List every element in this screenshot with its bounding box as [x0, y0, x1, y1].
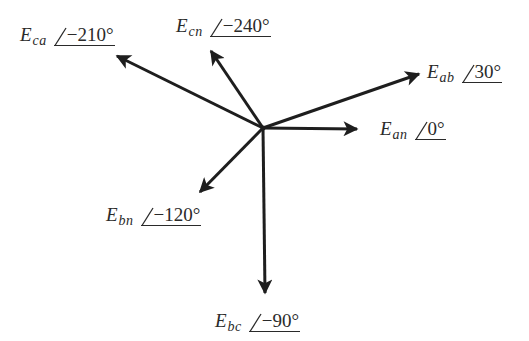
angle-notation: −120° [141, 205, 202, 226]
phasor-arrow-eca [117, 56, 263, 128]
label-subscript: ca [33, 33, 47, 48]
angle-symbol-icon [141, 207, 155, 226]
angle-notation: 0° [415, 119, 446, 140]
angle-value: 30° [475, 61, 502, 82]
label-subscript: ab [440, 70, 455, 85]
label-eca: Eca−210° [20, 25, 115, 46]
phasor-arrows [117, 51, 419, 293]
label-symbol: E [215, 310, 227, 331]
angle-value: −90° [262, 310, 299, 331]
label-subscript: cn [189, 24, 203, 39]
label-subscript: bn [119, 213, 134, 228]
angle-symbol-icon [54, 27, 68, 46]
label-eab: Eab30° [427, 62, 502, 83]
label-subscript: bc [228, 319, 242, 334]
label-symbol: E [106, 204, 118, 225]
phasor-arrow-ebn [200, 128, 263, 192]
angle-notation: −240° [210, 16, 271, 37]
label-ebn: Ebn−120° [106, 205, 201, 226]
label-symbol: E [176, 15, 188, 36]
angle-symbol-icon [249, 313, 263, 332]
angle-symbol-icon [415, 121, 429, 140]
origin-point [261, 126, 266, 131]
label-subscript: an [393, 127, 408, 142]
label-ebc: Ebc−90° [215, 311, 300, 332]
phasor-arrow-ean [263, 128, 357, 129]
angle-symbol-icon [210, 18, 224, 37]
angle-value: −120° [154, 204, 201, 225]
label-symbol: E [427, 61, 439, 82]
label-ean: Ean0° [380, 119, 446, 140]
label-symbol: E [20, 24, 32, 45]
angle-value: 0° [428, 118, 445, 139]
label-ecn: Ecn−240° [176, 16, 271, 37]
phasor-diagram [0, 0, 529, 341]
phasor-arrow-ebc [263, 128, 265, 293]
angle-value: −240° [223, 15, 270, 36]
angle-symbol-icon [462, 64, 476, 83]
angle-notation: −210° [54, 25, 115, 46]
angle-notation: −90° [249, 311, 300, 332]
label-symbol: E [380, 118, 392, 139]
angle-value: −210° [67, 24, 114, 45]
angle-notation: 30° [462, 62, 503, 83]
